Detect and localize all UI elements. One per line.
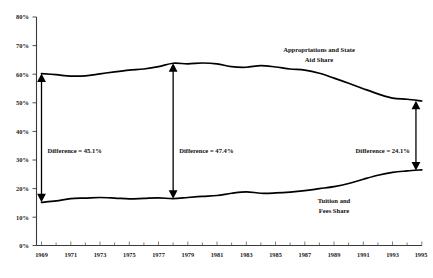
y-tick-label-50: 50% [16,99,29,106]
x-tick-label-1979: 1979 [182,251,195,258]
difference-1969-arrowhead-up [37,74,46,83]
x-tick-label-1981: 1981 [211,251,224,258]
difference-1995-arrowhead-up [412,101,421,110]
x-tick-label-1989: 1989 [328,251,341,258]
x-tick-label-1977: 1977 [152,251,165,258]
y-tick-label-80: 80% [16,13,29,20]
tuition-label-line1: Tuition and [318,197,351,204]
difference-1995-arrowhead-down [412,162,421,171]
difference-1969-label: Difference = 45.1% [48,147,102,154]
y-tick-label-0: 0% [19,242,29,249]
series-group [42,63,422,202]
x-tick-label-1983: 1983 [240,251,253,258]
chart-figure: 80% 70% 60% 50% 40% 30% 20% 10% 0% [0,0,433,278]
tuition-label-line2: Fees Share [319,207,350,214]
x-tick-label-1993: 1993 [386,251,399,258]
y-tick-label-10: 10% [16,214,29,221]
difference-1969: Difference = 45.1% [37,74,102,203]
difference-1995: Difference = 24.1% [356,101,421,171]
line-chart: 80% 70% 60% 50% 40% 30% 20% 10% 0% [0,0,433,278]
appropriations-label-line2: Aid Share [305,56,333,63]
appropriations-label-line1: Appropriations and State [283,46,355,53]
y-axis: 80% 70% 60% 50% 40% 30% 20% 10% 0% [16,13,37,249]
y-tick-label-60: 60% [16,71,29,78]
x-tick-label-1987: 1987 [299,251,312,258]
x-tick-label-1991: 1991 [357,251,370,258]
series-label-tuition: Tuition and Fees Share [318,197,351,214]
x-tick-label-1971: 1971 [65,251,78,258]
difference-1969-arrowhead-down [37,194,46,203]
x-tick-label-1969: 1969 [35,251,48,258]
difference-1995-label: Difference = 24.1% [356,147,410,154]
series-label-appropriations: Appropriations and State Aid Share [283,46,355,63]
x-axis: 1969 1971 1973 1975 1977 1979 1981 1983 … [35,242,427,258]
x-tick-label-1995: 1995 [415,251,428,258]
x-tick-label-1973: 1973 [94,251,107,258]
y-tick-label-40: 40% [16,128,29,135]
x-tick-label-1975: 1975 [123,251,136,258]
appropriations-and-state-aid-share-line [42,63,422,101]
y-tick-label-20: 20% [16,185,29,192]
y-tick-label-70: 70% [16,42,29,49]
difference-annotations: Difference = 45.1%Difference = 47.4%Diff… [37,63,420,202]
difference-1978: Difference = 47.4% [169,63,234,198]
y-tick-label-30: 30% [16,156,29,163]
difference-1978-label: Difference = 47.4% [179,147,233,154]
x-tick-label-1985: 1985 [269,251,282,258]
tuition-and-fees-share-line [42,170,422,203]
difference-1978-arrowhead-down [169,190,178,199]
